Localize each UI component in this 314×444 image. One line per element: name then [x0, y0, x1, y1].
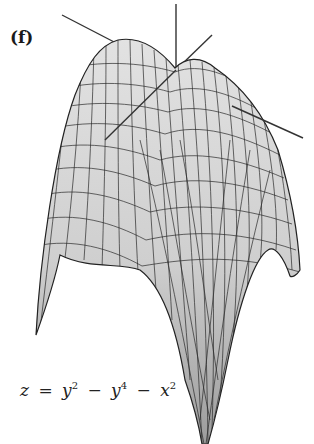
eq-term1-base: y — [62, 380, 72, 400]
eq-lhs: z — [20, 380, 29, 400]
eq-term3-exp: 2 — [170, 380, 176, 391]
eq-minus-2: − — [136, 380, 150, 400]
eq-term3-base: x — [160, 380, 170, 400]
equation: z = y2 − y4 − x2 — [20, 380, 176, 400]
surface-plot — [0, 0, 314, 444]
axis-line-left — [62, 15, 118, 44]
panel-label: (f) — [10, 27, 33, 47]
eq-term2-base: y — [111, 380, 121, 400]
eq-equals: = — [38, 380, 52, 400]
eq-term1-exp: 2 — [72, 380, 78, 391]
eq-term2-exp: 4 — [121, 380, 127, 391]
eq-minus-1: − — [87, 380, 101, 400]
